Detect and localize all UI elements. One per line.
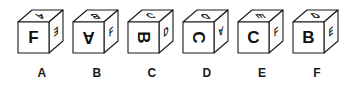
cube-e: CEF <box>234 6 290 58</box>
cube-d: CDA <box>179 6 235 58</box>
cube-slot-f: BDEF <box>289 0 345 91</box>
cube-front-letter: B <box>134 31 153 43</box>
cube-slot-b: ABFB <box>69 0 125 91</box>
cube-front-letter: B <box>302 28 314 47</box>
cube-a: FAE <box>14 6 70 58</box>
cube-label-e: E <box>234 66 290 80</box>
cube-label-b: B <box>69 66 125 80</box>
cube-label-f: F <box>289 66 345 80</box>
cube-c: BCD <box>124 6 180 58</box>
cube-label-a: A <box>14 66 70 80</box>
cube-slot-c: BCDC <box>124 0 180 91</box>
cube-label-d: D <box>179 66 235 80</box>
cube-front-letter: C <box>189 31 208 43</box>
cube-front-letter: C <box>247 28 259 47</box>
cube-slot-a: FAEA <box>14 0 70 91</box>
cube-puzzle-figure: FAEAABFBBCDCCDADCEFEBDEF <box>0 0 360 91</box>
cube-slot-d: CDAD <box>179 0 235 91</box>
cube-slot-e: CEFE <box>234 0 290 91</box>
cube-f: BDE <box>289 6 345 58</box>
cube-b: ABF <box>69 6 125 58</box>
cube-front-letter: A <box>82 28 94 47</box>
cube-label-c: C <box>124 66 180 80</box>
cube-front-letter: F <box>28 28 38 47</box>
